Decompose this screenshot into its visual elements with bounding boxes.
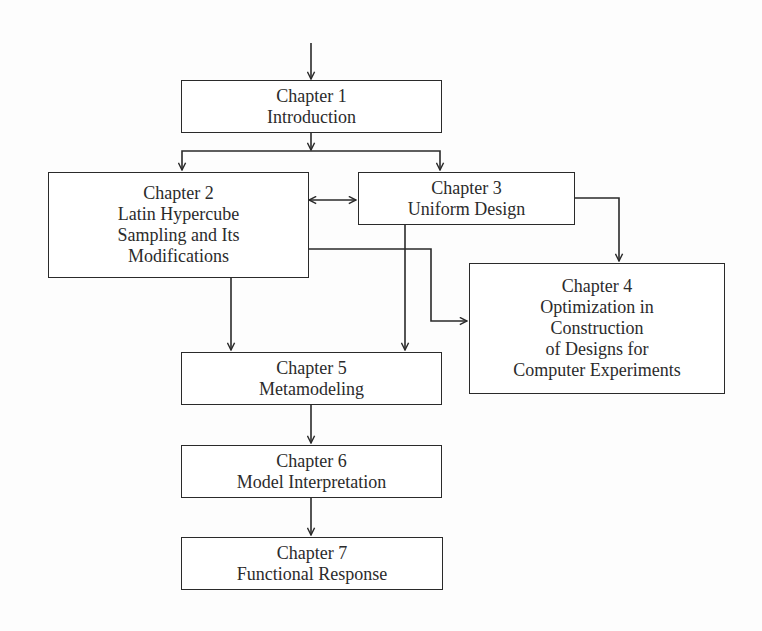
node-chapter-1: Chapter 1 Introduction — [181, 80, 442, 133]
node-chapter-6: Chapter 6 Model Interpretation — [181, 445, 442, 498]
node-label: Introduction — [267, 107, 356, 128]
node-title: Chapter 6 — [276, 451, 346, 472]
node-label: Latin Hypercube — [118, 204, 239, 225]
node-label: Functional Response — [237, 564, 388, 585]
edge-ch1-ch2 — [182, 151, 311, 170]
node-chapter-7: Chapter 7 Functional Response — [181, 537, 443, 590]
edge-ch1-ch3 — [311, 151, 440, 170]
node-title: Chapter 7 — [277, 543, 347, 564]
node-chapter-4: Chapter 4 Optimization in Construction o… — [469, 263, 725, 394]
node-title: Chapter 2 — [143, 183, 213, 204]
node-label: Computer Experiments — [513, 360, 680, 381]
node-chapter-3: Chapter 3 Uniform Design — [358, 172, 575, 225]
edge-ch3-ch4 — [575, 198, 619, 261]
node-title: Chapter 5 — [276, 358, 346, 379]
node-label: Construction — [551, 318, 644, 339]
chapter-flowchart: Chapter 1 Introduction Chapter 2 Latin H… — [0, 0, 762, 631]
node-title: Chapter 3 — [431, 178, 501, 199]
node-label: Modifications — [128, 246, 229, 267]
edge-ch2-ch4 — [308, 249, 467, 321]
node-label: Sampling and Its — [118, 225, 240, 246]
node-label: Optimization in — [540, 297, 653, 318]
node-title: Chapter 4 — [562, 276, 632, 297]
node-label: Uniform Design — [408, 199, 525, 220]
node-title: Chapter 1 — [276, 86, 346, 107]
node-label: of Designs for — [546, 339, 649, 360]
node-label: Metamodeling — [259, 379, 364, 400]
node-chapter-2: Chapter 2 Latin Hypercube Sampling and I… — [48, 172, 309, 278]
node-label: Model Interpretation — [237, 472, 386, 493]
node-chapter-5: Chapter 5 Metamodeling — [181, 352, 442, 405]
